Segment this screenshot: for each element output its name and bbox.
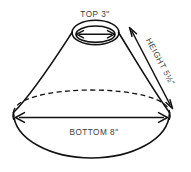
bottom-diameter-dimension xyxy=(16,113,168,123)
bottom-back-dashed-arc xyxy=(14,90,170,113)
cone-left-side xyxy=(14,33,73,113)
bottom-opening xyxy=(13,90,170,158)
top-diameter-dimension xyxy=(77,31,115,38)
bottom-dimension-label: BOTTOM 8" xyxy=(69,128,118,137)
lampshade-drawing: Lampshade dimensions diagram TOP 3" xyxy=(0,0,191,172)
lampshade-diagram: Lampshade dimensions diagram TOP 3" xyxy=(0,0,191,172)
height-dimension-label: HEIGHT 5½" xyxy=(144,37,177,87)
top-dimension-label: TOP 3" xyxy=(80,10,109,19)
